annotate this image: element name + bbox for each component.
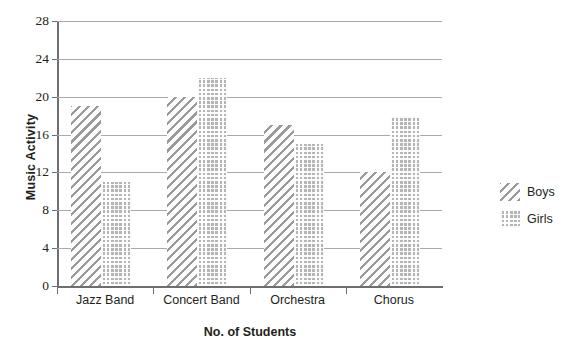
y-axis-tick-label: 8 [42,202,49,218]
x-axis-title: No. of Students [57,325,443,339]
legend-item-girls: Girls [500,210,572,228]
y-axis-tick-label: 0 [42,278,49,294]
bar [71,106,101,286]
x-axis-category-label: Orchestra [250,293,346,308]
bar [360,172,390,286]
x-axis-category-label: Concert Band [153,293,249,308]
y-axis-tick-label: 4 [42,240,49,256]
x-axis-category-label: Chorus [346,293,442,308]
legend-swatch-girls-icon [500,210,520,228]
bar-chart: Music Activity 2824201612840 Jazz BandCo… [0,0,572,347]
bar [197,78,227,286]
y-axis-tick-label: 24 [36,51,50,67]
plot-area: 2824201612840 [57,21,442,286]
legend-item-boys: Boys [500,183,572,201]
legend-swatch-boys-icon [500,183,520,201]
legend: Boys Girls [500,183,572,237]
bar [390,116,420,286]
bar [264,125,294,286]
y-axis-tick-label: 12 [36,164,50,180]
bar [167,97,197,286]
y-axis-tick-label: 28 [36,13,50,29]
bar [101,182,131,286]
legend-label-girls: Girls [527,212,553,226]
bar [294,144,324,286]
legend-label-boys: Boys [527,185,555,199]
y-axis-tick-label: 16 [36,127,50,143]
x-axis-category-label: Jazz Band [57,293,153,308]
y-axis-tick-label: 20 [36,89,50,105]
bars-layer [57,21,442,286]
